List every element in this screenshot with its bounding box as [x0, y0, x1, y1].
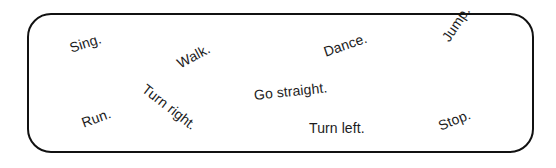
word-turn-left: Turn left.: [309, 120, 365, 136]
word-jump: Jump.: [438, 4, 473, 45]
word-stop: Stop.: [436, 106, 473, 133]
word-bank-box: Sing.Walk.Dance.Jump.Turn right.Go strai…: [27, 13, 534, 153]
word-turn-right: Turn right.: [139, 81, 200, 133]
word-sing: Sing.: [68, 30, 104, 55]
word-run: Run.: [79, 105, 113, 130]
word-dance: Dance.: [321, 30, 369, 60]
word-walk: Walk.: [174, 41, 212, 72]
word-go-straight: Go straight.: [253, 79, 328, 103]
worksheet-canvas: Sing.Walk.Dance.Jump.Turn right.Go strai…: [0, 0, 556, 168]
